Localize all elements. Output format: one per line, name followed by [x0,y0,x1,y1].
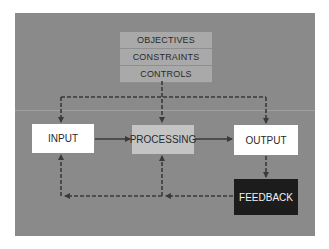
input-node: INPUT [32,124,94,153]
feedback-label: FEEDBACK [239,192,293,203]
output-label: OUTPUT [245,135,286,146]
processing-node: PROCESSING [132,125,194,154]
processing-label: PROCESSING [130,134,197,145]
input-label: INPUT [48,133,78,144]
output-node: OUTPUT [234,125,298,155]
feedback-node: FEEDBACK [234,179,298,215]
